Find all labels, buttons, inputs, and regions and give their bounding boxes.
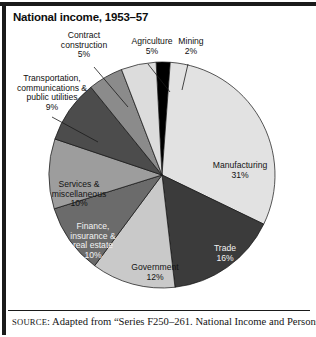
pie-chart: Agriculture 5% Mining 2% Contract constr…: [6, 32, 316, 310]
label-contract-construction: Contract construction 5%: [53, 31, 115, 60]
source-rule: [8, 310, 310, 311]
label-government: Government 12%: [120, 263, 190, 282]
figure-panel: National income, 1953–57 Agriculture 5% …: [0, 0, 316, 337]
label-manufacturing: Manufacturing 31%: [202, 161, 278, 180]
source-note: SOURCE: Adapted from “Series F250–261. N…: [12, 316, 312, 328]
label-finance: Finance, insurance & real estate 10%: [59, 222, 127, 260]
label-services: Services & miscellaneous 10%: [40, 180, 118, 209]
label-transportation: Transportation, communications & public …: [7, 74, 97, 112]
label-trade: Trade 16%: [205, 244, 245, 263]
label-mining: Mining 2%: [169, 37, 213, 56]
page-title: National income, 1953–57: [13, 11, 148, 23]
source-label: SOURCE: [12, 317, 47, 327]
source-body: : Adapted from “Series F250–261. Nationa…: [47, 316, 316, 327]
top-rule: [0, 2, 316, 6]
